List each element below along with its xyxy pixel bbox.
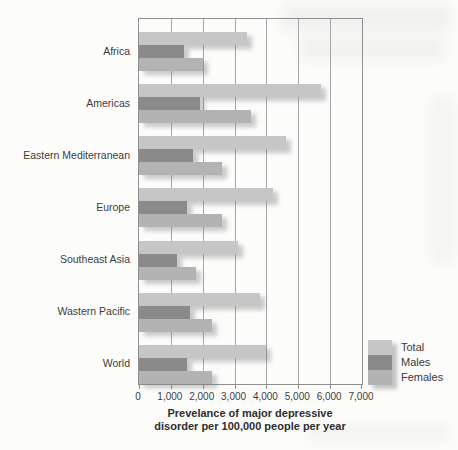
bar-total-eastern-mediterranean	[139, 136, 286, 149]
legend-swatch-males	[368, 355, 392, 370]
bar-males-eastern-mediterranean	[139, 149, 193, 162]
gridline-4000	[266, 19, 267, 384]
bar-total-europe	[139, 188, 273, 201]
axis-tick-5000	[298, 384, 299, 389]
gridline-5000	[298, 19, 299, 384]
axis-tick-2000	[203, 384, 204, 389]
bar-total-wastern-pacific	[139, 293, 260, 306]
legend: TotalMalesFemales	[368, 340, 443, 385]
bar-total-americas	[139, 84, 321, 97]
bar-total-africa	[139, 32, 247, 45]
category-label-europe: Europe	[0, 201, 130, 213]
bar-females-wastern-pacific	[139, 319, 212, 332]
category-label-southeast-asia: Southeast Asia	[0, 253, 130, 265]
legend-label-total: Total	[392, 340, 443, 355]
category-label-africa: Africa	[0, 45, 130, 57]
x-axis-title: Prevelance of major depressive disorder …	[95, 407, 405, 432]
bar-females-europe	[139, 214, 222, 227]
category-label-eastern-mediterranean: Eastern Mediterranean	[0, 149, 130, 161]
bar-females-southeast-asia	[139, 267, 196, 280]
axis-tick-6000	[330, 384, 331, 389]
category-label-world: World	[0, 357, 130, 369]
bar-total-world	[139, 345, 266, 358]
category-label-americas: Americas	[0, 97, 130, 109]
x-axis-title-line-1: Prevelance of major depressive	[95, 407, 405, 420]
bar-males-world	[139, 358, 187, 371]
legend-swatch-total	[368, 340, 392, 355]
legend-swatch-females	[368, 370, 392, 385]
bar-females-africa	[139, 58, 203, 71]
scanned-book-page: AfricaAmericasEastern MediterraneanEurop…	[0, 0, 458, 450]
bar-males-southeast-asia	[139, 254, 177, 267]
legend-label-females: Females	[392, 370, 443, 385]
plot-area	[138, 18, 363, 385]
gridline-3000	[235, 19, 236, 384]
category-label-wastern-pacific: Wastern Pacific	[0, 305, 130, 317]
bar-males-africa	[139, 45, 184, 58]
bar-males-americas	[139, 97, 200, 110]
bar-females-americas	[139, 110, 251, 123]
legend-label-column: TotalMalesFemales	[392, 340, 443, 385]
gridline-6000	[330, 19, 331, 384]
legend-label-males: Males	[392, 355, 443, 370]
page-bleed-artifact	[430, 95, 456, 265]
bar-females-world	[139, 371, 212, 384]
bar-females-eastern-mediterranean	[139, 162, 222, 175]
bar-total-southeast-asia	[139, 241, 238, 254]
axis-tick-0	[139, 384, 140, 389]
axis-tick-7000	[361, 384, 362, 389]
x-axis-title-line-2: disorder per 100,000 people per year	[95, 420, 405, 433]
bar-males-wastern-pacific	[139, 306, 190, 319]
legend-swatch-column	[368, 340, 392, 385]
x-tick-label-7-000: 7,000	[336, 391, 386, 402]
bar-males-europe	[139, 201, 187, 214]
axis-tick-3000	[235, 384, 236, 389]
axis-tick-4000	[266, 384, 267, 389]
axis-tick-1000	[171, 384, 172, 389]
